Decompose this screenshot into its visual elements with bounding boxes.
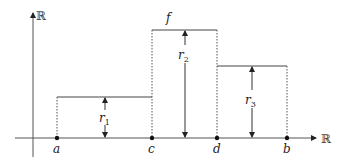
- step-function-diagram: ℝ ℝ f r1 r2 r3 a c d b: [0, 0, 351, 160]
- label-d: d: [213, 142, 221, 156]
- label-b: b: [283, 142, 291, 156]
- height-label-r2: r2: [178, 48, 189, 64]
- height-label-r3: r3: [245, 93, 256, 109]
- r3-sub: 3: [251, 100, 256, 109]
- r1-sub: 1: [105, 118, 110, 127]
- point-d: [215, 136, 219, 140]
- point-c: [150, 136, 154, 140]
- x-axis-label: ℝ: [321, 132, 332, 146]
- function-label: f: [165, 11, 173, 25]
- point-a: [55, 136, 59, 140]
- height-label-r1: r1: [99, 111, 110, 127]
- point-b: [285, 136, 289, 140]
- r2-sub: 2: [184, 55, 189, 64]
- label-c: c: [148, 142, 155, 156]
- label-a: a: [53, 142, 60, 156]
- y-axis-label: ℝ: [36, 9, 47, 23]
- height-arrows: [105, 31, 252, 137]
- axes: ℝ ℝ: [15, 9, 332, 157]
